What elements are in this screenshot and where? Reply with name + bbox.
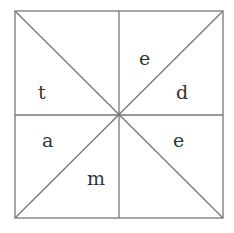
letter-top-right-lower: d: [176, 81, 188, 103]
letter-square-diagram: t e d a m e: [0, 0, 234, 233]
letter-bottom-left-upper: a: [42, 129, 53, 151]
letter-top-left: t: [38, 81, 46, 103]
letter-top-right-upper: e: [139, 47, 150, 69]
letter-bottom-right: e: [173, 129, 184, 151]
letter-bottom-left-lower: m: [87, 167, 105, 189]
